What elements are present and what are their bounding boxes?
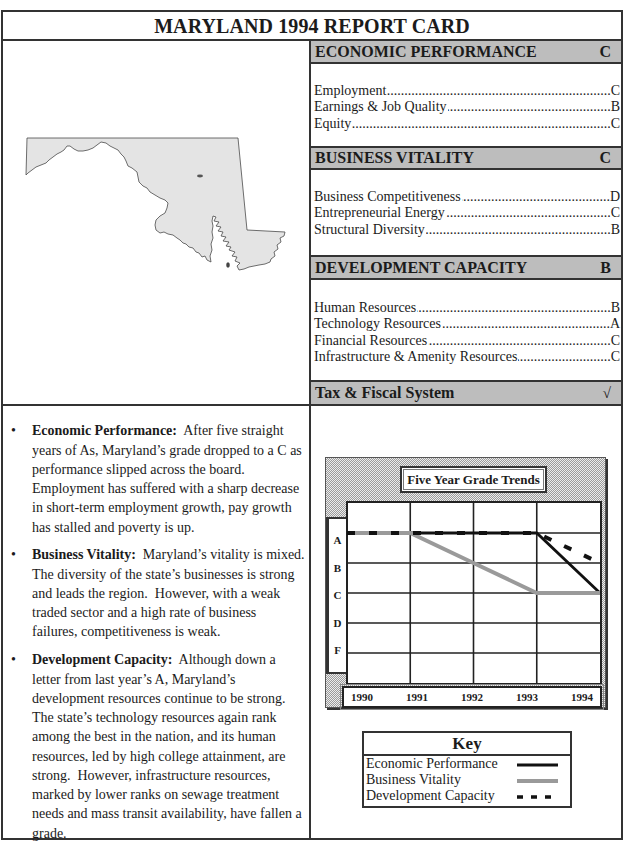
- chart-x-axis: 1990 1991 1992 1993 1994: [342, 686, 602, 708]
- checkmark-icon: √: [603, 385, 611, 402]
- maryland-map-icon: [3, 41, 309, 404]
- x-tick-label: 1992: [461, 691, 483, 703]
- section-header-business-vitality: BUSINESS VITALITY C: [311, 146, 621, 170]
- bullet-icon: •: [11, 421, 16, 440]
- dot-leader: [448, 99, 611, 115]
- summary-text: After five straight years of As, Marylan…: [32, 423, 305, 534]
- legend-entry: Business Vitality: [364, 772, 570, 788]
- bullet-icon: •: [11, 545, 16, 564]
- dot-leader: [426, 222, 611, 238]
- summary-item-business-vitality: •Business Vitality: Maryland’s vitality …: [10, 545, 305, 641]
- grade-item: Earnings & Job QualityB: [314, 99, 620, 115]
- legend-label: Economic Performance: [366, 756, 498, 771]
- summary-heading: Development Capacity:: [32, 652, 172, 667]
- dot-leader: [518, 349, 610, 365]
- section-title: DEVELOPMENT CAPACITY: [315, 259, 527, 277]
- section-grade: C: [599, 149, 611, 167]
- summary-item-development-capacity: •Development Capacity: Although down a l…: [10, 650, 305, 843]
- y-tick-label: A: [329, 527, 346, 555]
- x-tick-label: 1993: [516, 691, 538, 703]
- grade-item: EquityC: [314, 116, 620, 132]
- dot-leader: [428, 333, 611, 349]
- section-header-economic-performance: ECONOMIC PERFORMANCE C: [311, 39, 621, 64]
- section-title: Tax & Fiscal System: [315, 384, 454, 402]
- section-grade: B: [600, 259, 611, 277]
- item-label: Human Resources: [314, 300, 416, 316]
- business-vitality-items: Business CompetitivenessD Entrepreneuria…: [314, 189, 620, 238]
- dot-leader: [442, 316, 610, 332]
- development-capacity-items: Human ResourcesB Technology ResourcesA F…: [314, 300, 620, 366]
- section-title: BUSINESS VITALITY: [315, 149, 474, 167]
- y-tick-label: D: [329, 610, 346, 638]
- chart-y-axis: A B C D F: [326, 517, 348, 674]
- summary-item-economic-performance: •Economic Performance: After five straig…: [10, 421, 305, 537]
- section-header-development-capacity: DEVELOPMENT CAPACITY B: [311, 255, 621, 280]
- grade-item: Structural DiversityB: [314, 222, 620, 238]
- item-grade: B: [611, 99, 620, 115]
- economic-performance-items: EmploymentC Earnings & Job QualityB Equi…: [314, 83, 620, 132]
- x-tick-label: 1994: [571, 691, 593, 703]
- grade-item: Business CompetitivenessD: [314, 189, 620, 205]
- item-grade: C: [611, 349, 620, 365]
- y-tick-label: C: [329, 582, 346, 610]
- item-grade: C: [611, 116, 620, 132]
- x-tick-label: 1990: [351, 691, 373, 703]
- page-title: MARYLAND 1994 REPORT CARD: [3, 12, 621, 39]
- legend-entry: Development Capacity: [364, 788, 570, 804]
- item-label: Employment: [314, 83, 386, 99]
- grade-item: Financial ResourcesC: [314, 333, 620, 349]
- chart-legend: Key Economic Performance Business Vitali…: [362, 731, 572, 808]
- item-grade: D: [610, 189, 620, 205]
- item-grade: B: [611, 300, 620, 316]
- bullet-icon: •: [11, 650, 16, 669]
- legend-label: Business Vitality: [366, 772, 461, 787]
- y-tick-label: B: [329, 555, 346, 583]
- summary-heading: Business Vitality:: [32, 547, 136, 562]
- item-grade: C: [611, 83, 620, 99]
- legend-line-solid-black-icon: [515, 756, 560, 772]
- dot-leader: [352, 116, 610, 132]
- legend-line-solid-gray-icon: [515, 772, 560, 788]
- grade-item: Infrastructure & Amenity ResourcesC: [314, 349, 620, 365]
- item-label: Equity: [314, 116, 351, 132]
- legend-entry: Economic Performance: [364, 756, 570, 772]
- item-label: Technology Resources: [314, 316, 441, 332]
- item-label: Infrastructure & Amenity Resources: [314, 349, 517, 365]
- chart-plot-area: [346, 501, 602, 685]
- chart-title: Five Year Grade Trends: [400, 466, 547, 493]
- legend-line-dashed-icon: [515, 788, 560, 804]
- grade-item: Technology ResourcesA: [314, 316, 620, 332]
- y-tick-label: F: [329, 637, 346, 665]
- item-grade: A: [610, 316, 620, 332]
- x-tick-label: 1991: [406, 691, 428, 703]
- item-grade: B: [611, 222, 620, 238]
- summary-list: •Economic Performance: After five straig…: [10, 421, 309, 851]
- summary-text: Although down a letter from last year’s …: [32, 652, 305, 840]
- section-grade: C: [599, 43, 611, 61]
- grade-item: Entrepreneurial EnergyC: [314, 205, 620, 221]
- dot-leader: [417, 300, 610, 316]
- dot-leader: [387, 83, 610, 99]
- summary-heading: Economic Performance:: [32, 423, 177, 438]
- dot-leader: [446, 205, 611, 221]
- grade-item: EmploymentC: [314, 83, 620, 99]
- grade-item: Human ResourcesB: [314, 300, 620, 316]
- item-label: Business Competitiveness: [314, 189, 461, 205]
- item-label: Structural Diversity: [314, 222, 425, 238]
- dot-leader: [462, 189, 610, 205]
- item-grade: C: [611, 205, 620, 221]
- item-label: Earnings & Job Quality: [314, 99, 447, 115]
- legend-title: Key: [364, 733, 570, 756]
- section-header-tax-fiscal-system: Tax & Fiscal System √: [311, 380, 621, 406]
- item-label: Entrepreneurial Energy: [314, 205, 445, 221]
- item-grade: C: [611, 333, 620, 349]
- legend-label: Development Capacity: [366, 788, 495, 803]
- item-label: Financial Resources: [314, 333, 427, 349]
- section-title: ECONOMIC PERFORMANCE: [315, 43, 537, 61]
